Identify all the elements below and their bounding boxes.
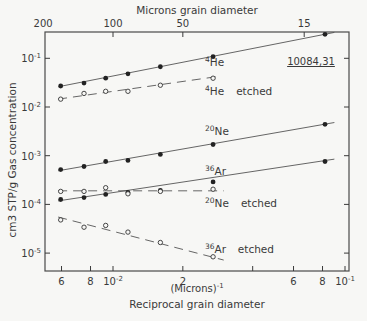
sample-id: 10084,31: [287, 56, 335, 67]
x-tick-label: 8: [87, 276, 93, 287]
x2-tick-label: 15: [298, 18, 311, 29]
x-tick-label: 6: [58, 276, 64, 287]
data-point-filled: [103, 159, 108, 164]
data-point-filled: [82, 195, 87, 200]
data-point-open: [82, 225, 86, 229]
data-point-open: [103, 89, 107, 93]
y-tick-label: 10-2: [21, 101, 41, 113]
y-tick-label: 10-1: [21, 52, 41, 64]
data-point-open: [103, 223, 107, 227]
data-point-open: [82, 189, 86, 193]
chart: 6810-226810-1200100501510-110-210-310-41…: [0, 0, 367, 321]
data-point-filled: [126, 158, 131, 163]
bottom-axis-title: Reciprocal grain diameter: [129, 298, 265, 310]
y-tick-label: 10-5: [21, 247, 41, 259]
data-point-open: [58, 189, 62, 193]
data-point-filled: [58, 84, 63, 89]
top-axis-title: Microns grain diameter: [136, 4, 258, 16]
data-point-open: [158, 189, 162, 193]
data-point-open: [126, 230, 130, 234]
data-point-filled: [323, 122, 328, 127]
fit-line: [58, 123, 334, 171]
data-point-open: [211, 255, 215, 259]
fit-line: [58, 159, 334, 201]
data-point-filled: [211, 179, 216, 184]
data-point-filled: [158, 152, 163, 157]
series-labels: 4He4Heetched20Ne36Ar20Neetched36Aretched: [205, 55, 277, 255]
y-tick-label: 10-4: [21, 198, 41, 210]
data-point-open: [58, 97, 62, 101]
x-tick-label: 6: [290, 276, 296, 287]
plot-frame: [45, 32, 349, 271]
data-point-open: [58, 218, 62, 222]
data-point-filled: [58, 197, 63, 202]
data-point-filled: [58, 167, 63, 172]
x2-tick-label: 100: [103, 18, 122, 29]
x-tick-label: 8: [319, 276, 325, 287]
data-point-open: [158, 83, 162, 87]
series-label: 4Heetched: [205, 84, 272, 97]
data-point-filled: [82, 164, 87, 169]
data-point-open: [211, 187, 215, 191]
unit-exp: -1: [217, 282, 224, 290]
series-label: 36Aretched: [205, 242, 274, 255]
data-point-filled: [211, 142, 216, 147]
bottom-axis-unit: (Microns)-1: [170, 282, 223, 294]
series-label: 20Ne: [205, 124, 229, 137]
y-axis-title: cm3 STP/g Gas concentration: [6, 82, 18, 237]
data-point-filled: [82, 81, 87, 86]
series-label: 36Ar: [205, 164, 227, 177]
x-tick-label: 10-1: [335, 275, 355, 287]
data-point-open: [103, 186, 107, 190]
data-point-open: [211, 76, 215, 80]
y-tick-label: 10-3: [21, 150, 41, 162]
data-point-filled: [103, 76, 108, 81]
x2-tick-label: 200: [34, 18, 53, 29]
data-point-filled: [323, 32, 328, 37]
data-point-open: [126, 192, 130, 196]
x-tick-label: 10-2: [103, 275, 123, 287]
fit-line: [58, 77, 217, 99]
unit-text: (Microns): [170, 283, 216, 294]
data-point-filled: [158, 64, 163, 69]
data-point-filled: [103, 192, 108, 197]
series-label: 20Neetched: [205, 196, 277, 209]
data-point-open: [126, 89, 130, 93]
data-point-filled: [323, 159, 328, 164]
data-point-open: [82, 91, 86, 95]
x2-tick-label: 50: [176, 18, 189, 29]
data-point-open: [158, 240, 162, 244]
fit-line: [58, 217, 224, 260]
data-point-filled: [126, 71, 131, 76]
series-label: 4He: [205, 55, 224, 68]
